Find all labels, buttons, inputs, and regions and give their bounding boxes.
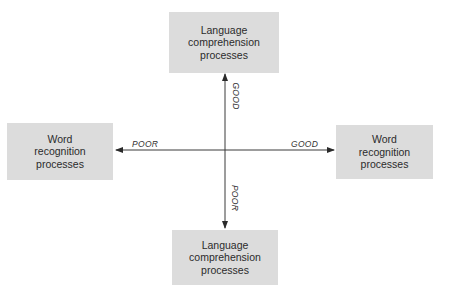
box-top-label: Language comprehension processes <box>188 24 260 62</box>
box-language-comprehension-bottom: Language comprehension processes <box>172 230 278 285</box>
box-word-recognition-left: Word recognition processes <box>7 123 113 180</box>
axis-label-left-poor: POOR <box>132 139 158 149</box>
box-left-label: Word recognition processes <box>34 133 85 171</box>
axis-label-top-good: GOOD <box>231 82 241 109</box>
box-word-recognition-right: Word recognition processes <box>336 125 433 179</box>
axis-label-right-good: GOOD <box>291 139 318 149</box>
box-language-comprehension-top: Language comprehension processes <box>169 12 279 73</box>
axis-label-bottom-poor: POOR <box>230 185 240 211</box>
box-bottom-label: Language comprehension processes <box>189 239 261 277</box>
box-right-label: Word recognition processes <box>359 133 410 171</box>
